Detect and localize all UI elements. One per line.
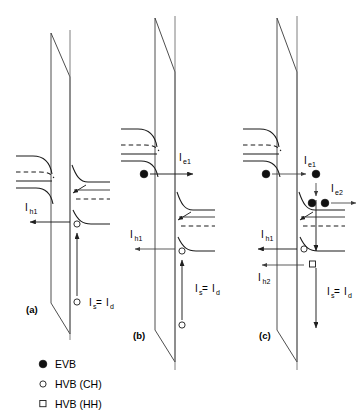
label-ih1-b-sub: h1 (135, 235, 143, 242)
fermi-level-left-c (243, 145, 281, 151)
panel-label-a: (a) (26, 304, 38, 315)
conduction-band-right-a (72, 165, 110, 182)
legend-label-hvb-hh: HVB (HH) (55, 398, 102, 410)
carrier-evb-c-1 (262, 170, 270, 178)
label-ie1-c-sub: e1 (308, 161, 316, 168)
label-is-id-a-eq: = (96, 297, 102, 308)
band-diagram-svg: I h1 I s = I d (a) (0, 0, 363, 419)
conduction-band-right-b (177, 192, 215, 210)
carrier-evb-b-1 (140, 170, 148, 178)
label-ie2-c-sub: e2 (335, 189, 343, 196)
valence-band-hh-left-a (16, 188, 53, 204)
conduction-band-left-c (243, 129, 279, 147)
label-is-id-c-base2: I (344, 286, 347, 297)
label-ie1-c-base: I (304, 155, 307, 166)
barrier-slab-a (51, 33, 70, 334)
conduction-band-left-b (121, 129, 157, 147)
capture-arrow-c (300, 212, 313, 220)
fermi-level-left-a (16, 172, 54, 178)
legend-symbol-hvb-hh-icon (40, 401, 46, 407)
capture-arrow-b (178, 212, 191, 220)
panel-label-c: (c) (259, 330, 271, 341)
carrier-evb-c-3 (308, 199, 316, 207)
legend-symbol-hvb-ch-icon (40, 381, 46, 387)
label-is-id-c-base: I (327, 286, 330, 297)
panel-b: I e1 I h1 I s = I d (b) (121, 16, 220, 370)
label-ih2-c-sub: h2 (263, 278, 271, 285)
label-is-id-b-eq: = (202, 283, 208, 294)
label-is-id-b-sub2: d (216, 289, 220, 296)
label-is-id-c-sub2: d (348, 292, 352, 299)
label-ie1-b-sub: e1 (183, 158, 191, 165)
carrier-evb-c-4 (321, 199, 329, 207)
label-ih2-c-base: I (258, 272, 261, 283)
legend-label-hvb-ch: HVB (CH) (55, 378, 102, 390)
barrier-slab-c (277, 18, 297, 362)
label-ih1-c-base: I (261, 229, 264, 240)
label-ih1-b-base: I (130, 229, 133, 240)
label-is-id-c-eq: = (334, 286, 340, 297)
carrier-hvb-ch-c-1 (301, 246, 307, 252)
legend-symbol-evb-icon (39, 360, 47, 368)
carrier-hvb-ch-a-2 (74, 299, 80, 305)
legend-label-evb: EVB (55, 358, 76, 370)
label-is-id-a-sub2: d (110, 303, 114, 310)
carrier-hvb-hh-c-1 (310, 261, 316, 267)
label-is-id-b-base: I (195, 283, 198, 294)
label-is-id-a-base2: I (106, 297, 109, 308)
valence-band-hh-left-c (243, 161, 280, 177)
label-ih1-c-sub: h1 (266, 235, 274, 242)
carrier-hvb-ch-b-1 (179, 248, 185, 254)
capture-arrow-a (73, 185, 86, 193)
barrier-slab-b (155, 18, 175, 362)
label-ie1-b-base: I (179, 152, 182, 163)
label-is-id-b-base2: I (212, 283, 215, 294)
carrier-hvb-ch-a-1 (74, 221, 80, 227)
panel-c: I e1 I e2 I h1 I h2 (243, 16, 356, 370)
legend: EVB HVB (CH) HVB (HH) (39, 358, 101, 410)
label-ih1-a-base: I (25, 202, 28, 213)
label-ie2-c-base: I (331, 183, 334, 194)
conduction-band-left-a (16, 156, 52, 174)
panel-label-b: (b) (133, 330, 145, 341)
carrier-hvb-ch-b-2 (179, 322, 185, 328)
band-diagram-figure: I h1 I s = I d (a) (0, 0, 363, 419)
panel-a: I h1 I s = I d (a) (16, 30, 114, 340)
fermi-level-left-b (121, 145, 159, 151)
valence-band-hh-left-b (121, 161, 158, 177)
label-ih1-a-sub: h1 (30, 208, 38, 215)
label-is-id-a-base: I (89, 297, 92, 308)
carrier-evb-c-2 (312, 170, 320, 178)
